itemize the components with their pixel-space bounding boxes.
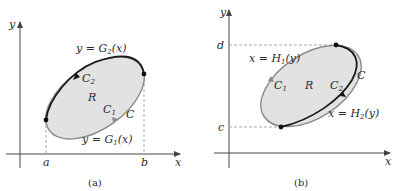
label-g1: y = G1(x) [81,133,132,147]
point-c [279,125,284,130]
point-a-right [142,72,147,77]
label-region-b: R [304,79,313,92]
label-h2: x = H2(y) [328,107,379,121]
tick-c: c [218,121,224,134]
label-region-a: R [87,91,96,104]
tick-a: a [43,156,50,169]
label-h1: x = H1(y) [249,52,300,66]
x-axis-label-b: x [385,155,392,168]
panel-a: y x a b y = G2(x) C2 R C1 C y = G1(x) (a… [6,18,182,188]
y-axis-label-b: y [219,6,227,19]
caption-b: (b) [294,177,308,188]
x-axis-label-a: x [175,156,182,169]
tick-b: b [141,156,148,169]
label-g2: y = G2(x) [75,42,126,56]
y-axis-label-a: y [8,18,16,31]
panel-b: y x d c x = H1(y) C1 R C2 C x = H2(y) (b… [214,6,392,188]
label-boundary-b: C [357,69,366,82]
caption-a: (a) [88,177,102,188]
tick-d: d [217,39,224,52]
label-boundary-a: C [126,108,135,121]
point-a-left [44,118,49,123]
green-theorem-figure: y x a b y = G2(x) C2 R C1 C y = G1(x) (a… [0,0,396,191]
point-d [334,43,339,48]
